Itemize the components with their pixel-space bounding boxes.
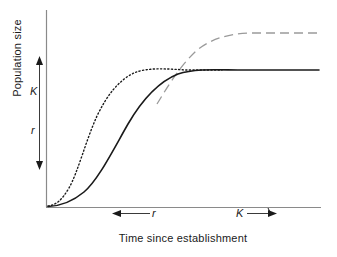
y-range-arrow [36,56,43,170]
x-segment-label-r: r [152,207,156,219]
x-phase-K-arrow [247,208,277,217]
x-segment-label-K: K [236,207,243,219]
x-phase-r-arrow [112,210,150,217]
population-growth-figure: Population size Time since establishment… [0,0,337,257]
y-axis-title: Population size [11,0,23,123]
y-segment-label-r: r [31,124,35,136]
curve-dashed-high [157,33,318,104]
y-segment-label-K: K [30,85,37,97]
x-axis-title: Time since establishment [46,232,320,244]
plot-area [0,0,337,257]
curve-dotted [48,69,222,206]
